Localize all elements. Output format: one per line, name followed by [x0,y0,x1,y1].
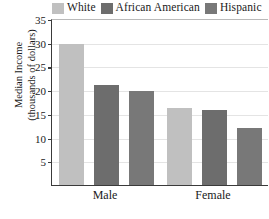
x-axis-line [51,185,268,186]
legend-swatch-hispanic-icon [205,3,217,14]
bar-hispanic-male [129,91,154,186]
x-axis-group-label-male: Male [93,189,118,201]
gridline [52,115,268,116]
y-axis-tick [48,115,52,116]
legend-label-white: White [67,2,96,14]
legend-label-african-american: African American [116,2,200,14]
legend-swatch-african-american-icon [101,3,113,14]
legend-entry-hispanic: Hispanic [205,2,262,14]
gridline [52,91,268,92]
y-axis-tick-label: 25 [35,62,46,73]
y-axis-tick-label: 15 [35,109,46,120]
y-axis-tick-label: 30 [35,38,46,49]
bar-white-female [167,108,192,186]
y-axis-tick-label: 20 [35,86,46,97]
chart-legend: White African American Hispanic [52,1,267,15]
legend-entry-white: White [52,2,96,14]
legend-swatch-white-icon [52,3,64,14]
y-axis-title-line-1: Median Income [13,0,26,155]
y-axis-tick-label: 5 [41,157,47,168]
y-axis-tick [48,139,52,140]
y-axis-tick [48,162,52,163]
y-axis-tick-label: 35 [35,15,46,26]
legend-label-hispanic: Hispanic [220,2,262,14]
gridline [52,67,268,68]
x-axis-group-label-female: Female [195,189,230,201]
bar-hispanic-female [237,128,262,186]
y-axis-tick [48,91,52,92]
bar-chart-figure: White African American Hispanic Median I… [0,0,269,219]
bar-african-american-female [202,110,227,186]
legend-entry-african-american: African American [101,2,200,14]
y-axis-tick [48,20,52,21]
bar-white-male [59,44,84,186]
y-axis-tick [48,67,52,68]
bar-african-american-male [94,85,119,186]
gridline [52,44,268,45]
y-axis-tick [48,44,52,45]
plot-area: 5101520253035 [51,19,268,186]
y-axis-tick-label: 10 [35,133,46,144]
